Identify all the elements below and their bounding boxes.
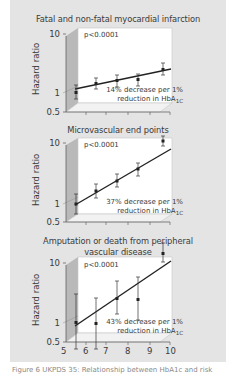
panel-2-annotation: 37% decrease per 1% reduction in HbA1C — [106, 198, 183, 218]
panel-2-ytick-0-5: 0.5 — [36, 217, 60, 227]
panel-3-xtick-8: 8 — [125, 346, 130, 356]
panel-1-annotation: 14% decrease per 1% reduction in HbA1C — [106, 86, 183, 106]
panel-3-xtick-7: 7 — [103, 346, 108, 356]
panel-3-ytick-1: 1 — [36, 318, 60, 328]
panel-1-title: Fatal and non-fatal myocardial infarctio… — [0, 14, 236, 24]
panel-3-ytick-10: 10 — [36, 258, 60, 268]
panel-3-title-line2: vascular disease — [84, 247, 152, 257]
panel-2-ytick-1: 1 — [36, 199, 60, 209]
panel-2-title: Microvascular end points — [0, 125, 236, 135]
panel-1-pvalue: p<0.0001 — [84, 31, 119, 39]
panel-1-ytick-10: 10 — [36, 29, 60, 39]
panel-3-note-sub: 1C — [176, 330, 183, 336]
panel-1-note-line1: 14% decrease per 1% — [106, 86, 183, 94]
panel-3-pvalue: p<0.0001 — [84, 261, 119, 269]
panel-3-annotation: 43% decrease per 1% reduction in HbA1C — [106, 318, 183, 338]
panel-1-ytick-0-5: 0.5 — [36, 107, 60, 117]
panel-2-ytick-10: 10 — [36, 138, 60, 148]
panel-3-ytick-0-5: 0.5 — [36, 337, 60, 347]
panel-1-ytick-1: 1 — [36, 88, 60, 98]
panel-3-xtick-10: 10 — [165, 346, 176, 356]
panel-2-note-line1: 37% decrease per 1% — [106, 198, 183, 206]
panel-1-note-sub: 1C — [176, 98, 183, 104]
panel-3-title-line1: Amputation or death from peripheral — [43, 236, 193, 246]
panel-3-xtick-6: 6 — [83, 346, 88, 356]
panel-3-xtick-5: 5 — [61, 346, 66, 356]
panel-3-title: Amputation or death from peripheral vasc… — [0, 236, 236, 258]
panel-1-note-line2: reduction in HbA — [117, 95, 176, 103]
panel-2-pvalue: p<0.0001 — [84, 141, 119, 149]
figure-caption: Figure 6 UKPDS 35: Relationship between … — [12, 366, 212, 374]
panel-3-note-line2: reduction in HbA — [117, 327, 176, 335]
panel-3-xtick-9: 9 — [147, 346, 152, 356]
panel-3-note-line1: 43% decrease per 1% — [106, 318, 183, 326]
panel-2-note-line2: reduction in HbA — [117, 207, 176, 215]
panel-2-note-sub: 1C — [176, 210, 183, 216]
